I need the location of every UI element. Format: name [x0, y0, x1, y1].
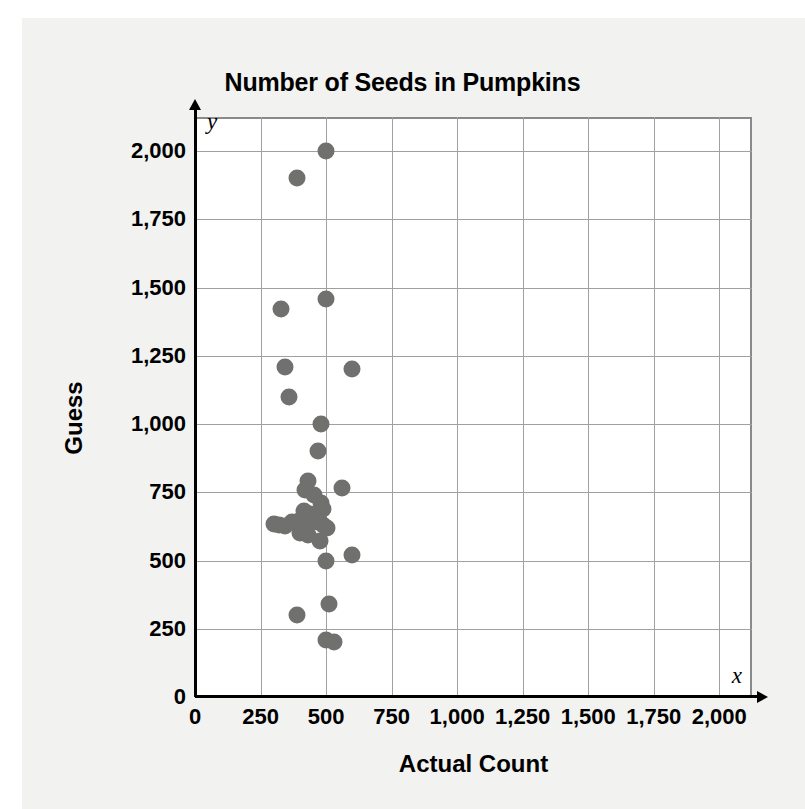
scatter-point — [310, 443, 327, 460]
y-axis-arrow-icon — [189, 99, 201, 110]
gridline-vertical — [261, 117, 262, 697]
gridline-vertical — [719, 117, 720, 697]
x-tick-label: 1,000 — [430, 704, 485, 730]
gridline-vertical — [654, 117, 655, 697]
y-tick-label: 2,000 — [76, 138, 186, 164]
plot-frame — [195, 117, 752, 697]
page-edge-left — [0, 0, 22, 809]
x-tick-label: 1,500 — [561, 704, 616, 730]
gridline-vertical — [523, 117, 524, 697]
x-axis-variable-label: x — [732, 663, 742, 689]
scatter-point — [289, 170, 306, 187]
scatter-point — [344, 547, 361, 564]
gridline-horizontal — [195, 424, 752, 425]
gridline-vertical — [588, 117, 589, 697]
gridline-horizontal — [195, 629, 752, 630]
gridline-horizontal — [195, 356, 752, 357]
y-axis-line — [194, 107, 197, 697]
y-axis-title: Guess — [60, 338, 88, 498]
gridline-vertical — [457, 117, 458, 697]
y-tick-label: 750 — [76, 479, 186, 505]
scatter-point — [320, 596, 337, 613]
scatter-point — [344, 361, 361, 378]
x-axis-line — [195, 695, 762, 698]
y-tick-label: 1,500 — [76, 275, 186, 301]
x-tick-label: 500 — [308, 704, 345, 730]
scatter-point — [318, 290, 335, 307]
y-axis-variable-label: y — [207, 109, 217, 135]
scatter-point — [318, 143, 335, 160]
gridline-horizontal — [195, 288, 752, 289]
y-tick-label: 250 — [76, 616, 186, 642]
x-tick-label: 1,250 — [495, 704, 550, 730]
scatter-point — [311, 533, 328, 550]
y-tick-label: 1,000 — [76, 411, 186, 437]
chart-title: Number of Seeds in Pumpkins — [0, 68, 805, 97]
y-tick-label: 1,750 — [76, 206, 186, 232]
gridline-horizontal — [195, 151, 752, 152]
scatter-point — [333, 480, 350, 497]
scatter-point — [281, 388, 298, 405]
x-tick-label: 0 — [189, 704, 201, 730]
y-tick-label: 500 — [76, 548, 186, 574]
y-tick-label: 1,250 — [76, 343, 186, 369]
gridline-horizontal — [195, 561, 752, 562]
figure-container: Number of Seeds in Pumpkins 02505007501,… — [0, 0, 805, 809]
x-tick-label: 1,750 — [626, 704, 681, 730]
x-tick-label: 2,000 — [692, 704, 747, 730]
scatter-point — [318, 552, 335, 569]
scatter-point — [273, 301, 290, 318]
scatter-point — [289, 607, 306, 624]
page-edge-top — [0, 0, 805, 18]
x-axis-title: Actual Count — [195, 750, 752, 778]
x-axis-arrow-icon — [757, 691, 768, 703]
gridline-horizontal — [195, 492, 752, 493]
plot-area: y x — [195, 117, 752, 697]
y-tick-label: 0 — [76, 684, 186, 710]
x-tick-label: 750 — [373, 704, 410, 730]
scatter-point — [325, 634, 342, 651]
scatter-point — [312, 416, 329, 433]
x-axis-tick-labels: 02505007501,0001,2501,5001,7502,000 — [195, 704, 755, 734]
gridline-vertical — [392, 117, 393, 697]
x-tick-label: 250 — [242, 704, 279, 730]
gridline-horizontal — [195, 219, 752, 220]
scatter-point — [277, 358, 294, 375]
